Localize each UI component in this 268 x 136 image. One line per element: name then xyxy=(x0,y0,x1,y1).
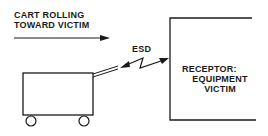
label-line: RECEPTOR: xyxy=(180,64,260,74)
esd-label: ESD xyxy=(132,44,151,54)
cart-icon xyxy=(23,66,118,126)
label-line: CART ROLLING xyxy=(14,10,89,20)
receptor-label: RECEPTOR: EQUIPMENT VICTIM xyxy=(180,64,260,94)
motion-arrow xyxy=(14,35,110,41)
cart-rolling-label: CART ROLLING TOWARD VICTIM xyxy=(14,10,89,30)
label-line: VICTIM xyxy=(180,84,260,94)
label-line: TOWARD VICTIM xyxy=(14,20,89,30)
label-line: EQUIPMENT xyxy=(180,74,260,84)
lightning-bolt-icon xyxy=(120,58,169,68)
